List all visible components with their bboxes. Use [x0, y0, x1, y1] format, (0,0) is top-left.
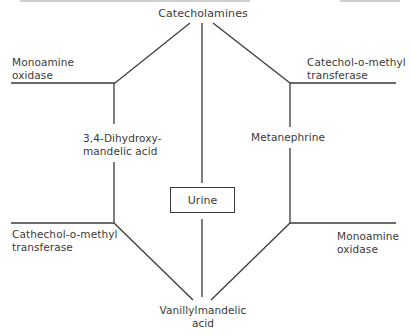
- label-left-upper-enzyme-line1: Monoamine: [12, 56, 74, 69]
- label-right-upper-enzyme-line2: transferase: [307, 69, 406, 82]
- node-vanillylmandelic-acid-line2: acid: [160, 317, 247, 330]
- label-right-lower-enzyme-line1: Monoamine: [337, 230, 399, 243]
- catecholamine-metabolism-diagram: Catecholamines Monoamine oxidase Catecho…: [0, 0, 412, 335]
- label-left-lower-enzyme-line1: Cathechol-o-methyl: [12, 228, 118, 241]
- label-right-upper-enzyme: Catechol-o-methyl transferase: [307, 56, 406, 82]
- label-right-lower-enzyme: Monoamine oxidase: [337, 230, 399, 256]
- line-to-left-junction: [115, 23, 190, 83]
- line-to-right-junction: [213, 23, 290, 83]
- node-dihydroxymandelic-acid: 3,4-Dihydroxy- mandelic acid: [83, 132, 162, 158]
- node-urine: Urine: [170, 187, 235, 213]
- node-vanillylmandelic-acid-line1: Vanillylmandelic: [160, 304, 247, 317]
- label-left-lower-enzyme: Cathechol-o-methyl transferase: [12, 228, 118, 254]
- node-metanephrine: Metanephrine: [251, 131, 325, 144]
- label-left-upper-enzyme: Monoamine oxidase: [12, 56, 74, 82]
- node-vanillylmandelic-acid: Vanillylmandelic acid: [160, 304, 247, 330]
- label-left-lower-enzyme-line2: transferase: [12, 241, 118, 254]
- line-left-to-vma: [114, 223, 193, 300]
- node-dihydroxymandelic-acid-line2: mandelic acid: [83, 145, 162, 158]
- node-urine-label: Urine: [188, 194, 217, 207]
- label-right-lower-enzyme-line2: oxidase: [337, 243, 399, 256]
- connector-lines: [0, 0, 412, 335]
- node-dihydroxymandelic-acid-line1: 3,4-Dihydroxy-: [83, 132, 162, 145]
- line-right-to-vma: [211, 223, 290, 300]
- label-right-upper-enzyme-line1: Catechol-o-methyl: [307, 56, 406, 69]
- label-left-upper-enzyme-line2: oxidase: [12, 69, 74, 82]
- node-catecholamines: Catecholamines: [158, 7, 248, 20]
